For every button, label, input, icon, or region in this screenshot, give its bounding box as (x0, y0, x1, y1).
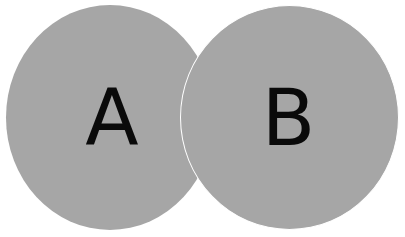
circle-a-label: A (85, 79, 138, 157)
venn-diagram: A B (0, 0, 405, 237)
circle-b-label: B (262, 79, 316, 157)
circle-b: B (180, 5, 399, 230)
